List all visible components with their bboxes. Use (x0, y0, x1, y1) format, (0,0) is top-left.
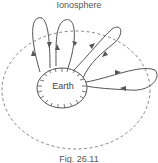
ray-loop-1 (33, 18, 50, 72)
figure-caption: Fig. 26.11 (0, 154, 158, 163)
arrow-icon (72, 41, 77, 46)
ray-loop-4 (86, 69, 157, 91)
ray-loop-3 (72, 27, 121, 78)
ray-loop-2 (56, 20, 74, 68)
figure: Ionosphere Earth Fig. 26.11 (0, 0, 158, 163)
earth-label: Earth (44, 81, 82, 91)
arrow-icon (120, 86, 126, 91)
ionosphere-label: Ionosphere (0, 0, 158, 10)
